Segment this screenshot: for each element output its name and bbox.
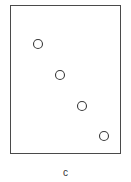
- figure-caption: c: [0, 167, 131, 179]
- data-point-marker: [100, 132, 109, 141]
- data-point-marker: [34, 40, 43, 49]
- data-point-marker: [56, 71, 65, 80]
- data-points: [34, 40, 109, 141]
- scatter-plot: [0, 0, 131, 182]
- data-point-marker: [78, 102, 87, 111]
